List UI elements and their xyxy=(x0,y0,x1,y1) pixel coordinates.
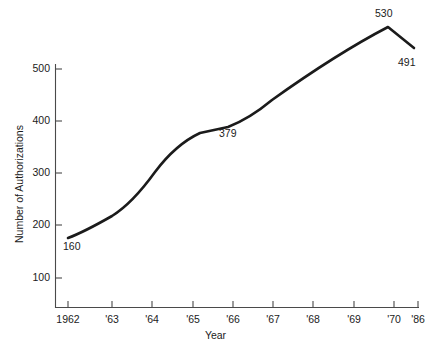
data-label-160: 160 xyxy=(63,241,81,252)
data-label-530: 530 xyxy=(375,8,393,19)
x-tick-label-68: '68 xyxy=(293,314,333,325)
y-tick-label-100: 100 xyxy=(20,272,50,283)
line-chart: 500 400 300 200 100 1962 '63 '64 '65 '66… xyxy=(0,0,431,348)
x-tick-label-64: '64 xyxy=(132,314,172,325)
data-label-491: 491 xyxy=(398,57,416,68)
x-tick-label-63: '63 xyxy=(92,314,132,325)
x-tick-label-1962: 1962 xyxy=(48,314,88,325)
chart-plot-area xyxy=(0,0,431,348)
x-tick-label-66: '66 xyxy=(213,314,253,325)
x-tick-label-67: '67 xyxy=(253,314,293,325)
y-tick-label-400: 400 xyxy=(20,115,50,126)
x-tick-label-65: '65 xyxy=(173,314,213,325)
y-tick-label-500: 500 xyxy=(20,63,50,74)
y-axis-ticks xyxy=(56,69,63,278)
x-axis-ticks xyxy=(68,301,418,308)
x-tick-label-86: '86 xyxy=(398,314,431,325)
y-axis-title: Number of Authorizations xyxy=(14,125,25,243)
x-axis-title: Year xyxy=(0,330,431,341)
data-label-379: 379 xyxy=(219,128,237,139)
x-tick-label-69: '69 xyxy=(334,314,374,325)
data-series-line xyxy=(68,27,414,238)
